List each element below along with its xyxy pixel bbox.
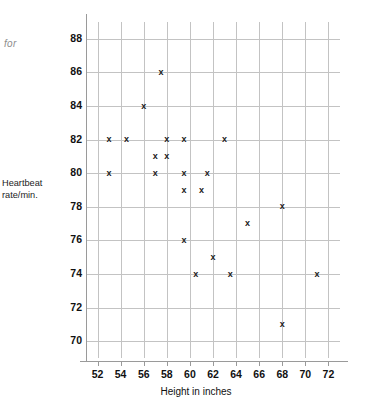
data-point-marker: x	[105, 134, 114, 145]
data-point-marker: x	[226, 269, 235, 280]
x-tick-mark	[282, 361, 283, 366]
data-point-marker: x	[151, 151, 160, 162]
y-tick-label: 88	[56, 32, 82, 44]
data-point-marker: x	[209, 252, 218, 263]
x-tick-mark	[259, 361, 260, 366]
plot-area: xxxxxxxxxxxxxxxxxxxxxxx	[86, 22, 340, 358]
data-point-marker: x	[139, 101, 148, 112]
data-point-marker: x	[180, 185, 189, 196]
y-tick-label: 72	[56, 301, 82, 313]
gridline-horizontal	[86, 308, 340, 309]
y-tick-label: 86	[56, 65, 82, 77]
gridline-horizontal	[86, 240, 340, 241]
data-point-marker: x	[180, 134, 189, 145]
x-tick-label: 54	[109, 368, 133, 380]
x-tick-label: 64	[224, 368, 248, 380]
x-tick-label: 56	[132, 368, 156, 380]
data-point-marker: x	[180, 168, 189, 179]
gridline-horizontal	[86, 173, 340, 174]
data-point-marker: x	[191, 269, 200, 280]
gridline-horizontal	[86, 39, 340, 40]
gridline-horizontal	[86, 274, 340, 275]
x-tick-mark	[236, 361, 237, 366]
x-tick-mark	[305, 361, 306, 366]
x-tick-mark	[190, 361, 191, 366]
x-tick-mark	[144, 361, 145, 366]
y-axis-line	[86, 14, 87, 362]
data-point-marker: x	[122, 134, 131, 145]
y-axis-tick-labels: 70727476788082848688	[52, 22, 82, 358]
x-tick-mark	[328, 361, 329, 366]
gridline-horizontal	[86, 72, 340, 73]
x-tick-mark	[167, 361, 168, 366]
x-tick-label: 52	[86, 368, 110, 380]
y-tick-label: 80	[56, 166, 82, 178]
x-tick-mark	[121, 361, 122, 366]
y-tick-label: 78	[56, 200, 82, 212]
y-axis-title: Heartbeat rate/min.	[2, 178, 58, 201]
data-point-marker: x	[203, 168, 212, 179]
x-axis-title: Height in inches	[0, 386, 392, 397]
data-point-marker: x	[197, 185, 206, 196]
x-tick-label: 60	[178, 368, 202, 380]
gridline-horizontal	[86, 341, 340, 342]
data-point-marker: x	[157, 67, 166, 78]
y-tick-label: 82	[56, 133, 82, 145]
side-annotation-text: for	[4, 38, 17, 49]
data-point-marker: x	[278, 319, 287, 330]
x-tick-label: 68	[270, 368, 294, 380]
scatter-plot-figure: for Heartbeat rate/min. xxxxxxxxxxxxxxxx…	[0, 0, 392, 408]
data-point-marker: x	[243, 218, 252, 229]
y-tick-label: 84	[56, 99, 82, 111]
data-point-marker: x	[278, 201, 287, 212]
x-tick-label: 70	[293, 368, 317, 380]
data-point-marker: x	[220, 134, 229, 145]
y-tick-label: 76	[56, 233, 82, 245]
data-point-marker: x	[105, 168, 114, 179]
data-point-marker: x	[312, 269, 321, 280]
x-tick-mark	[98, 361, 99, 366]
x-tick-label: 66	[247, 368, 271, 380]
x-tick-label: 72	[316, 368, 340, 380]
data-point-marker: x	[180, 235, 189, 246]
data-point-marker: x	[162, 151, 171, 162]
x-tick-mark	[213, 361, 214, 366]
gridline-horizontal	[86, 106, 340, 107]
y-tick-label: 70	[56, 334, 82, 346]
gridline-horizontal	[86, 207, 340, 208]
y-tick-label: 74	[56, 267, 82, 279]
data-point-marker: x	[162, 134, 171, 145]
x-tick-label: 62	[201, 368, 225, 380]
data-point-marker: x	[151, 168, 160, 179]
x-tick-label: 58	[155, 368, 179, 380]
